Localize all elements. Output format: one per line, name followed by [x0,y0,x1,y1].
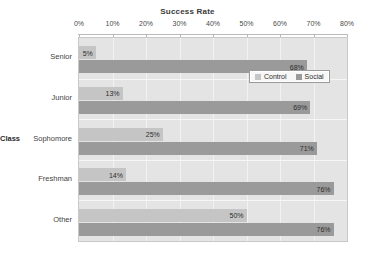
legend-label: Social [305,73,324,80]
legend-swatch-icon [255,74,261,80]
y-category-other: Other [0,215,72,224]
y-axis-category-labels: SeniorJuniorSophomoreFreshmanOther [0,37,375,242]
x-axis-tick-labels: 0%10%20%30%40%50%60%70%80% [78,20,348,34]
legend-label: Control [264,73,287,80]
legend-item-social[interactable]: Social [296,73,324,80]
x-tick-label: 60% [273,20,287,27]
x-tick-label: 30% [172,20,186,27]
legend-item-control[interactable]: Control [255,73,287,80]
chart-title: Success Rate [0,7,375,16]
y-category-senior: Senior [0,52,72,61]
x-tick-label: 20% [139,20,153,27]
x-tick-label: 50% [239,20,253,27]
x-tick-label: 0% [74,20,84,27]
y-axis-title: Class [0,134,40,143]
x-tick-label: 80% [340,20,354,27]
y-category-junior: Junior [0,93,72,102]
x-tick-label: 10% [105,20,119,27]
legend-swatch-icon [296,74,302,80]
x-tick-label: 70% [306,20,320,27]
chart-legend[interactable]: ControlSocial [249,70,330,83]
y-category-freshman: Freshman [0,174,72,183]
x-tick-label: 40% [206,20,220,27]
bar-chart: Success Rate 0%10%20%30%40%50%60%70%80% … [0,0,375,259]
